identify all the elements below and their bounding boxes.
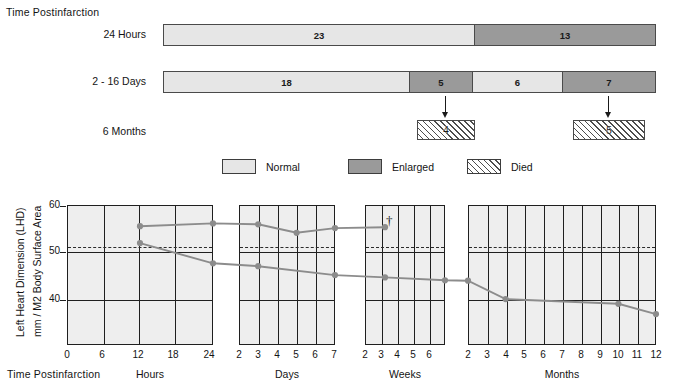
series-point bbox=[382, 274, 388, 280]
figure-root: Time Postinfarction 24 Hours 23 13 2 - 1… bbox=[0, 0, 676, 390]
series-point bbox=[137, 240, 143, 246]
series-point bbox=[137, 223, 143, 229]
chart-series-layer bbox=[0, 0, 676, 390]
series-point bbox=[255, 221, 261, 227]
series-point bbox=[332, 272, 338, 278]
series-point bbox=[294, 230, 300, 236]
series-point bbox=[210, 220, 216, 226]
series-point bbox=[332, 225, 338, 231]
series-point bbox=[653, 311, 659, 317]
series-point bbox=[442, 277, 448, 283]
series-point bbox=[465, 278, 471, 284]
series-point bbox=[615, 301, 621, 307]
series-point bbox=[382, 224, 388, 230]
series-point bbox=[255, 263, 261, 269]
series-line bbox=[140, 223, 385, 232]
series-line bbox=[140, 243, 656, 314]
series-point bbox=[210, 260, 216, 266]
series-point bbox=[503, 296, 509, 302]
